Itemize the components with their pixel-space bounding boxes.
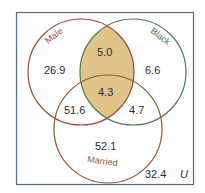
male-only-value: 26.9 (44, 64, 65, 76)
universe-label: U (180, 168, 188, 180)
male-black-value: 5.0 (97, 46, 112, 58)
male-married-value: 51.6 (64, 104, 85, 116)
black-married-value: 4.7 (129, 104, 144, 116)
married-only-value: 52.1 (95, 140, 116, 152)
black-only-value: 6.6 (145, 64, 160, 76)
venn-diagram: Male Black Married 26.9 5.0 6.6 4.3 51.6… (0, 0, 205, 193)
none-value: 32.4 (145, 168, 166, 180)
all-three-value: 4.3 (98, 86, 113, 98)
